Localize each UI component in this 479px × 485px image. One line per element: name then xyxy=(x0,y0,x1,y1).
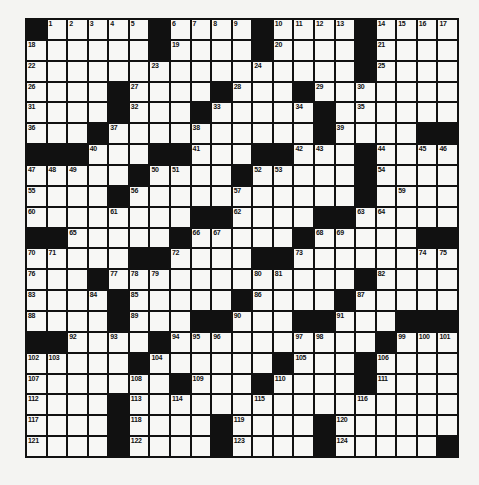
answer-cell[interactable]: 46 xyxy=(438,145,457,164)
answer-cell[interactable]: 11 xyxy=(294,20,313,39)
answer-cell[interactable]: 59 xyxy=(397,187,416,206)
answer-cell[interactable] xyxy=(418,270,437,289)
answer-cell[interactable] xyxy=(418,62,437,81)
answer-cell[interactable] xyxy=(397,145,416,164)
answer-cell[interactable] xyxy=(192,187,211,206)
answer-cell[interactable]: 52 xyxy=(253,166,272,185)
answer-cell[interactable] xyxy=(192,62,211,81)
answer-cell[interactable] xyxy=(294,41,313,60)
answer-cell[interactable]: 60 xyxy=(27,208,46,227)
answer-cell[interactable] xyxy=(418,83,437,102)
answer-cell[interactable] xyxy=(233,395,252,414)
answer-cell[interactable] xyxy=(294,375,313,394)
answer-cell[interactable] xyxy=(171,124,190,143)
answer-cell[interactable]: 124 xyxy=(336,437,355,456)
answer-cell[interactable]: 116 xyxy=(356,395,375,414)
answer-cell[interactable] xyxy=(130,124,149,143)
answer-cell[interactable] xyxy=(109,375,128,394)
answer-cell[interactable] xyxy=(294,291,313,310)
answer-cell[interactable] xyxy=(274,333,293,352)
answer-cell[interactable]: 30 xyxy=(356,83,375,102)
answer-cell[interactable] xyxy=(253,103,272,122)
answer-cell[interactable] xyxy=(171,416,190,435)
answer-cell[interactable] xyxy=(89,41,108,60)
answer-cell[interactable]: 99 xyxy=(397,333,416,352)
answer-cell[interactable]: 84 xyxy=(89,291,108,310)
answer-cell[interactable] xyxy=(109,41,128,60)
answer-cell[interactable] xyxy=(68,208,87,227)
answer-cell[interactable]: 65 xyxy=(68,229,87,248)
answer-cell[interactable]: 18 xyxy=(27,41,46,60)
answer-cell[interactable]: 67 xyxy=(212,229,231,248)
answer-cell[interactable]: 35 xyxy=(356,103,375,122)
answer-cell[interactable] xyxy=(150,375,169,394)
answer-cell[interactable] xyxy=(336,395,355,414)
answer-cell[interactable]: 106 xyxy=(377,354,396,373)
answer-cell[interactable] xyxy=(377,187,396,206)
answer-cell[interactable]: 85 xyxy=(130,291,149,310)
answer-cell[interactable] xyxy=(418,375,437,394)
answer-cell[interactable] xyxy=(438,208,457,227)
answer-cell[interactable] xyxy=(274,395,293,414)
answer-cell[interactable]: 73 xyxy=(294,249,313,268)
answer-cell[interactable]: 66 xyxy=(192,229,211,248)
answer-cell[interactable] xyxy=(418,395,437,414)
answer-cell[interactable] xyxy=(418,354,437,373)
answer-cell[interactable]: 95 xyxy=(192,333,211,352)
answer-cell[interactable] xyxy=(89,166,108,185)
answer-cell[interactable] xyxy=(356,229,375,248)
answer-cell[interactable] xyxy=(253,416,272,435)
answer-cell[interactable] xyxy=(233,354,252,373)
answer-cell[interactable] xyxy=(274,187,293,206)
answer-cell[interactable]: 71 xyxy=(48,249,67,268)
answer-cell[interactable] xyxy=(68,270,87,289)
answer-cell[interactable]: 62 xyxy=(233,208,252,227)
answer-cell[interactable] xyxy=(89,375,108,394)
answer-cell[interactable] xyxy=(192,291,211,310)
answer-cell[interactable] xyxy=(192,166,211,185)
answer-cell[interactable]: 10 xyxy=(274,20,293,39)
answer-cell[interactable] xyxy=(315,375,334,394)
answer-cell[interactable] xyxy=(171,83,190,102)
answer-cell[interactable] xyxy=(150,395,169,414)
answer-cell[interactable] xyxy=(274,208,293,227)
answer-cell[interactable] xyxy=(438,166,457,185)
answer-cell[interactable] xyxy=(253,229,272,248)
answer-cell[interactable]: 1 xyxy=(48,20,67,39)
answer-cell[interactable]: 102 xyxy=(27,354,46,373)
answer-cell[interactable] xyxy=(356,416,375,435)
answer-cell[interactable]: 90 xyxy=(233,312,252,331)
answer-cell[interactable] xyxy=(377,83,396,102)
answer-cell[interactable] xyxy=(336,333,355,352)
answer-cell[interactable]: 43 xyxy=(315,145,334,164)
answer-cell[interactable] xyxy=(315,249,334,268)
answer-cell[interactable] xyxy=(89,187,108,206)
answer-cell[interactable] xyxy=(109,145,128,164)
answer-cell[interactable]: 15 xyxy=(397,20,416,39)
answer-cell[interactable] xyxy=(192,83,211,102)
answer-cell[interactable]: 34 xyxy=(294,103,313,122)
answer-cell[interactable]: 39 xyxy=(336,124,355,143)
answer-cell[interactable] xyxy=(68,395,87,414)
answer-cell[interactable] xyxy=(233,62,252,81)
answer-cell[interactable] xyxy=(315,270,334,289)
answer-cell[interactable]: 26 xyxy=(27,83,46,102)
answer-cell[interactable] xyxy=(192,249,211,268)
answer-cell[interactable]: 105 xyxy=(294,354,313,373)
answer-cell[interactable] xyxy=(356,124,375,143)
answer-cell[interactable] xyxy=(150,229,169,248)
answer-cell[interactable]: 24 xyxy=(253,62,272,81)
answer-cell[interactable] xyxy=(68,437,87,456)
answer-cell[interactable]: 19 xyxy=(171,41,190,60)
answer-cell[interactable] xyxy=(109,354,128,373)
answer-cell[interactable] xyxy=(68,416,87,435)
answer-cell[interactable] xyxy=(438,395,457,414)
answer-cell[interactable] xyxy=(294,395,313,414)
answer-cell[interactable] xyxy=(274,229,293,248)
answer-cell[interactable] xyxy=(356,437,375,456)
answer-cell[interactable] xyxy=(212,249,231,268)
answer-cell[interactable] xyxy=(253,208,272,227)
answer-cell[interactable] xyxy=(89,437,108,456)
answer-cell[interactable]: 57 xyxy=(233,187,252,206)
answer-cell[interactable] xyxy=(294,437,313,456)
